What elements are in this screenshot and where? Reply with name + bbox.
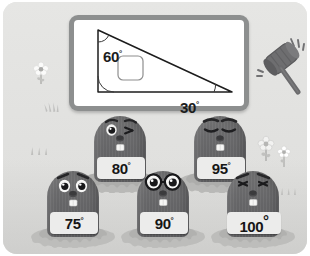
whiteboard-face: 60° 30°: [74, 20, 244, 106]
angle-plaque: 90°: [140, 212, 188, 234]
mole-face-squinting: [227, 165, 279, 209]
flower-icon: [255, 135, 277, 163]
mole-face-wide-eyed: [47, 165, 99, 209]
angle-plaque: 75°: [50, 212, 98, 234]
mallet-icon: [251, 35, 307, 97]
whiteboard: 60° 30°: [69, 15, 249, 111]
mole-face-winking: [94, 110, 146, 154]
mole-face-eyes-closed: [194, 110, 246, 154]
sparkle-icon: [29, 145, 55, 157]
grass-icon: [43, 100, 61, 112]
illustration-scene: 60° 30°: [0, 0, 310, 256]
mole-face-glasses: [137, 165, 189, 209]
mole-75[interactable]: 75°: [41, 165, 105, 243]
scene-panel: 60° 30°: [3, 2, 307, 254]
mole-100[interactable]: 100°: [221, 165, 285, 243]
flower-icon: [31, 60, 51, 86]
angle-label-60: 60°: [103, 48, 122, 65]
angle-plaque: 100°: [227, 212, 281, 234]
mole-90[interactable]: 90°: [131, 165, 195, 243]
triangle-diagram: [74, 20, 244, 106]
